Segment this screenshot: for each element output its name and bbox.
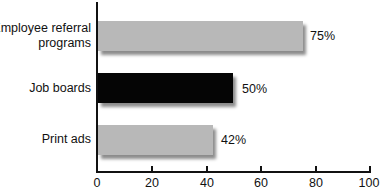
value-label-employee-referral: 75% — [310, 29, 335, 43]
x-tick-100 — [369, 166, 371, 172]
category-label-job-boards: Job boards — [29, 81, 91, 96]
x-axis-line — [96, 171, 371, 173]
x-tick-20 — [151, 166, 153, 172]
x-tick-label: 100 — [359, 176, 380, 189]
x-tick-60 — [260, 166, 262, 172]
value-label-job-boards: 50% — [242, 82, 267, 96]
category-label-employee-referral: Employee referral programs — [0, 21, 91, 51]
x-tick-label: 60 — [254, 176, 268, 189]
x-tick-label: 0 — [94, 176, 101, 189]
x-tick-label: 40 — [200, 176, 214, 189]
category-label-line: programs — [0, 36, 91, 51]
x-tick-80 — [315, 166, 317, 172]
x-tick-label: 80 — [309, 176, 323, 189]
value-label-print-ads: 42% — [221, 133, 246, 147]
bar-job-boards — [98, 73, 233, 103]
x-tick-40 — [206, 166, 208, 172]
x-tick-label: 20 — [145, 176, 159, 189]
category-label-print-ads: Print ads — [42, 132, 91, 147]
category-label-line: Employee referral — [0, 21, 91, 36]
bar-print-ads — [98, 125, 213, 155]
bar-employee-referral — [98, 21, 303, 51]
horizontal-bar-chart: 0 20 40 60 80 100 Employee referral prog… — [0, 0, 380, 189]
